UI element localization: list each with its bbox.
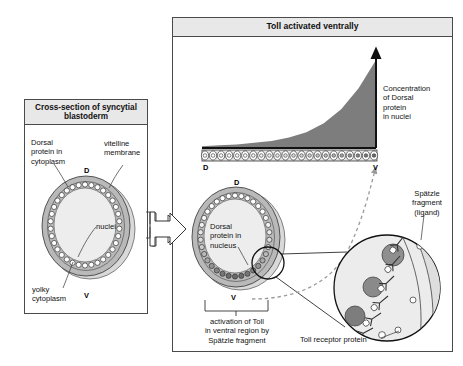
nucleus	[245, 271, 250, 276]
diagram-artwork	[0, 0, 463, 366]
nucleus	[55, 247, 60, 252]
strip-nucleus	[219, 154, 223, 158]
strip-nucleus	[292, 154, 296, 158]
inset-nucleus	[345, 306, 365, 326]
nucleus	[89, 262, 94, 267]
nucleus	[226, 273, 231, 278]
label-nuclei: nuclei	[96, 222, 116, 231]
left-embryo-ventral-marker: V	[84, 291, 89, 300]
strip-nucleus	[324, 154, 328, 158]
transition-block-arrow	[150, 212, 186, 246]
nucleus	[116, 233, 121, 238]
nucleus	[256, 263, 261, 268]
nucleus	[117, 219, 122, 224]
left-embryo-dorsal-marker: D	[84, 166, 89, 175]
left-embryo-diagram	[42, 176, 135, 279]
nucleus	[214, 268, 219, 273]
nucleus	[263, 215, 268, 220]
nucleus	[260, 209, 265, 214]
nucleus	[198, 237, 203, 242]
nucleus	[110, 198, 115, 203]
nucleus	[199, 244, 204, 249]
label-spatzle-fragment-ligand: Spätzle fragment (ligand)	[399, 189, 455, 217]
nucleus	[199, 222, 204, 227]
strip-nucleus	[348, 154, 352, 158]
membrane-inset	[334, 215, 463, 354]
strip-ventral-marker: V	[373, 163, 378, 172]
strip-nucleus	[340, 154, 344, 158]
nucleus	[106, 192, 111, 197]
nucleus	[89, 183, 94, 188]
nucleus	[95, 260, 100, 265]
nucleus	[209, 263, 214, 268]
nucleus	[49, 233, 54, 238]
nucleus	[263, 251, 268, 256]
nucleus	[64, 257, 69, 262]
strip-nucleus	[268, 154, 272, 158]
strip-nucleus	[260, 154, 264, 158]
nucleus	[220, 196, 225, 201]
strip-nucleus	[211, 154, 215, 158]
nucleus	[232, 193, 237, 198]
nucleus	[266, 222, 271, 227]
figure-canvas: Cross-section of syncytial blastoderm To…	[0, 0, 463, 366]
nucleus	[267, 237, 272, 242]
nucleus	[52, 204, 57, 209]
label-dorsal-protein-cytoplasm: Dorsal protein in cytoplasm	[31, 138, 65, 166]
strip-nucleus	[300, 154, 304, 158]
strip-nucleus	[332, 154, 336, 158]
strip-nucleus	[372, 154, 376, 158]
nucleus	[59, 192, 64, 197]
strip-nucleus	[235, 154, 239, 158]
nucleus	[113, 240, 118, 245]
nucleus	[267, 230, 272, 235]
nucleus	[48, 219, 53, 224]
label-concentration-dorsal-protein: Concentration of Dorsal protein in nucle…	[383, 84, 430, 121]
nucleus	[256, 203, 261, 208]
activation-bracket	[205, 300, 268, 316]
nucleus	[101, 188, 106, 193]
nucleus	[76, 262, 81, 267]
nucleus	[59, 252, 64, 257]
strip-nucleus	[203, 154, 207, 158]
nucleus	[82, 182, 87, 187]
nucleus	[82, 263, 87, 268]
nucleus	[260, 258, 265, 263]
nucleus	[198, 230, 203, 235]
label-toll-receptor-protein: Toll receptor protein	[300, 335, 367, 344]
nucleus	[116, 211, 121, 216]
nucleus	[113, 204, 118, 209]
nucleus	[64, 188, 69, 193]
cell-strip	[201, 150, 377, 161]
nucleus	[70, 185, 75, 190]
nucleus	[52, 240, 57, 245]
nucleus	[55, 198, 60, 203]
nucleus	[205, 258, 210, 263]
right-embryo-dorsal-marker: D	[234, 178, 239, 187]
nucleus	[101, 257, 106, 262]
strip-nucleus	[227, 154, 231, 158]
label-vitelline-membrane: vitelline membrane	[104, 139, 140, 158]
nucleus	[48, 226, 53, 231]
right-embryo-ventral-marker: V	[231, 293, 236, 302]
left-panel-edge-brackets	[146, 212, 150, 238]
strip-nucleus	[276, 154, 280, 158]
nucleus	[209, 203, 214, 208]
nucleus	[76, 183, 81, 188]
label-yolky-cytoplasm: yolky cytoplasm	[32, 285, 66, 304]
nucleus	[110, 247, 115, 252]
ligand-label-leader	[421, 215, 424, 240]
gradient-area-fill	[202, 60, 376, 148]
nucleus	[117, 226, 122, 231]
nucleus	[239, 194, 244, 199]
strip-nucleus	[356, 154, 360, 158]
nucleus	[202, 251, 207, 256]
nucleus	[245, 196, 250, 201]
spatzle-ligand-dot	[410, 297, 416, 303]
strip-nucleus	[243, 154, 247, 158]
nucleus	[220, 271, 225, 276]
strip-nucleus	[308, 154, 312, 158]
nucleus	[214, 199, 219, 204]
dorsal-gradient-chart	[202, 53, 376, 148]
nucleus	[106, 252, 111, 257]
